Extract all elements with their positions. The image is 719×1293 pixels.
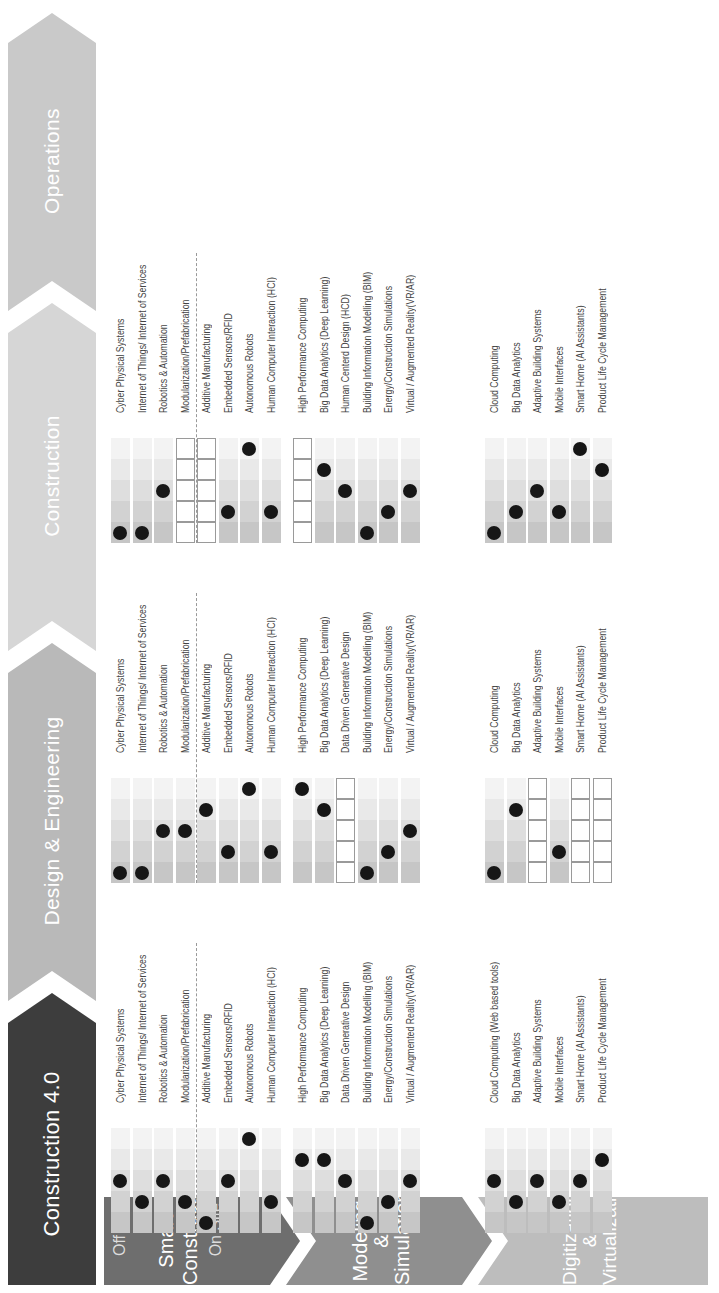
level-segment [593,1170,612,1191]
level-segment [315,480,334,501]
level-bar [262,438,281,543]
technology-label: Modularization/Prefabrication [179,640,192,753]
level-bar [550,1128,569,1233]
level-segment [593,480,612,501]
phase-label-construction: Construction [8,331,96,621]
level-dot [360,866,374,880]
technology-label: Building Information Modelling (BIM) [361,272,374,413]
level-segment [358,799,377,820]
level-segment [133,841,152,862]
level-bar [133,778,152,883]
level-segment [111,1212,130,1233]
level-segment [262,1212,281,1233]
level-segment [176,522,195,543]
level-segment [336,841,355,862]
level-segment [379,522,398,543]
level-dot [221,1174,235,1188]
level-bar [485,438,504,543]
level-dot [156,484,170,498]
level-segment [358,1191,377,1212]
level-segment [485,778,504,799]
level-dot [242,442,256,456]
level-segment [550,438,569,459]
level-bar [315,438,334,543]
level-segment [336,1212,355,1233]
level-segment [219,820,238,841]
level-segment [240,501,259,522]
level-segment [379,459,398,480]
level-bar [219,438,238,543]
technology-label: Product Life Cycle Management [596,978,609,1103]
level-dot [135,1195,149,1209]
level-segment [262,438,281,459]
technology-label: Embedded Sensors/RFID [222,653,235,753]
level-segment [401,1212,420,1233]
level-segment [176,459,195,480]
level-segment [240,1191,259,1212]
level-segment [133,1149,152,1170]
level-segment [528,501,547,522]
level-segment [262,778,281,799]
phase-label-operations: Operations [8,41,96,281]
level-bar [507,1128,526,1233]
level-bar [358,778,377,883]
phase-label-design: Design & Engineering [8,671,96,971]
level-segment [111,1128,130,1149]
level-segment [593,1191,612,1212]
level-segment [240,480,259,501]
level-segment [240,820,259,841]
level-segment [593,501,612,522]
level-segment [197,438,216,459]
level-segment [219,459,238,480]
technology-label: Big Data Analytics [510,682,523,753]
level-dot [552,1195,566,1209]
technology-label: Modularization/Prefabrication [179,990,192,1103]
technology-label: Additive Manufacturing [200,664,213,753]
level-bar [593,438,612,543]
level-segment [336,799,355,820]
level-bar [219,1128,238,1233]
level-segment [176,480,195,501]
level-segment [176,778,195,799]
level-dot [509,505,523,519]
level-segment [528,820,547,841]
level-dot [487,866,501,880]
level-segment [507,778,526,799]
construction-4-0-diagram: Construction 4.0 Design & Engineering Co… [0,0,719,1293]
level-segment [571,841,590,862]
level-segment [593,820,612,841]
level-segment [240,1170,259,1191]
level-segment [293,862,312,883]
level-segment [336,501,355,522]
technology-label: Embedded Sensors/RFID [222,1003,235,1103]
level-dot [338,484,352,498]
level-segment [133,438,152,459]
level-segment [550,778,569,799]
level-bar [240,778,259,883]
technology-label: Additive Manufacturing [200,1014,213,1103]
level-segment [571,480,590,501]
technology-label: Internet of Things/ Internet of Services [136,605,149,753]
technology-label: Adaptive Building Systems [531,309,544,413]
level-dot [113,526,127,540]
level-segment [401,1149,420,1170]
level-segment [571,459,590,480]
level-segment [262,1128,281,1149]
level-dot [135,526,149,540]
level-segment [111,1149,130,1170]
level-dot [295,1153,309,1167]
level-dot [264,1195,278,1209]
level-dot [403,1174,417,1188]
level-segment [401,841,420,862]
level-bar [240,1128,259,1233]
level-segment [358,438,377,459]
level-dot [487,1174,501,1188]
level-segment [336,438,355,459]
level-bar [401,778,420,883]
level-segment [507,1212,526,1233]
level-segment [197,480,216,501]
level-segment [315,820,334,841]
level-bar [528,438,547,543]
level-segment [176,841,195,862]
level-dot [135,866,149,880]
